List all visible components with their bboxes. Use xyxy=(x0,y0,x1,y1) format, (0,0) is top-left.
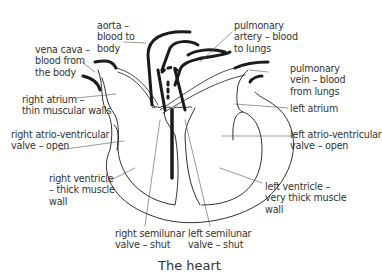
pulmonary-vein xyxy=(235,62,268,68)
label-left-ventricle: left ventricle – very thick muscle wall xyxy=(265,181,347,215)
label-left-semilunar: left semilunar valve – shut xyxy=(188,228,251,251)
label-right-ventricle: right ventricle – thick muscle wall xyxy=(49,173,115,207)
label-right-av-valve: right atrio-ventricular valve – open xyxy=(11,129,109,152)
label-left-av-valve: left atrio-ventricular valve – open xyxy=(290,129,382,152)
vena-cava xyxy=(95,61,116,68)
diagram-caption: The heart xyxy=(0,258,379,273)
label-aorta: aorta – blood to body xyxy=(97,20,135,54)
label-right-semilunar: right semilunar valve – shut xyxy=(115,228,185,251)
label-vena-cava: vena cava – blood from the body xyxy=(35,44,90,78)
label-pulmonary-vein: pulmonary vein – blood from lungs xyxy=(290,63,345,97)
left-chamber xyxy=(202,70,262,205)
label-pulmonary-artery: pulmonary artery – blood to lungs xyxy=(234,20,298,54)
label-left-atrium: left atrium xyxy=(290,103,338,114)
label-right-atrium: right atrium – thin muscular walls xyxy=(22,94,111,117)
